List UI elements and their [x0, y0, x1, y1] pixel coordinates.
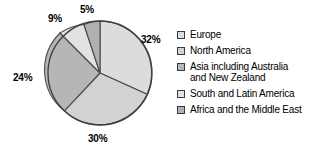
legend-swatch-icon-north-america	[177, 47, 185, 55]
legend-label-asia-line1: Asia including Australia	[190, 61, 288, 72]
pie-label-asia: 24%	[13, 72, 32, 83]
legend-item-europe: Europe	[177, 29, 314, 40]
legend-item-north-america: North America	[177, 45, 314, 56]
pie-label-europe: 32%	[141, 34, 160, 45]
legend-label-south-latin-america: South and Latin America	[190, 88, 294, 99]
legend-swatch-icon-europe	[177, 31, 185, 39]
chart-legend: Europe North America Asia including Aust…	[177, 29, 314, 120]
legend-label-europe: Europe	[190, 29, 221, 40]
legend-swatch-icon-africa-middle-east	[177, 106, 185, 114]
legend-label-north-america: North America	[190, 45, 251, 56]
pie-label-north-america: 30%	[88, 133, 107, 144]
legend-label-asia: Asia including Australiaand New Zealand	[190, 61, 288, 83]
legend-swatch-icon-south-latin-america	[177, 90, 185, 98]
pie-label-south-latin-america: 9%	[48, 13, 62, 24]
legend-swatch-icon-asia	[177, 63, 185, 71]
pie-label-africa-middle-east: 5%	[80, 4, 94, 15]
legend-item-asia: Asia including Australiaand New Zealand	[177, 61, 314, 83]
legend-label-africa-middle-east: Africa and the Middle East	[190, 104, 302, 115]
legend-item-africa-middle-east: Africa and the Middle East	[177, 104, 314, 115]
legend-item-south-latin-america: South and Latin America	[177, 88, 314, 99]
pie-chart-screenshot: 32% 30% 24% 9% 5% Europe North America A…	[0, 0, 314, 155]
legend-label-asia-line2: and New Zealand	[190, 72, 265, 83]
